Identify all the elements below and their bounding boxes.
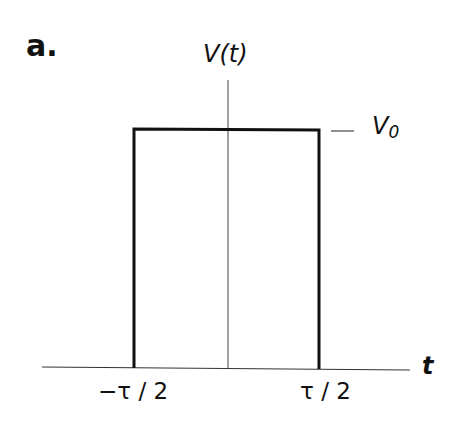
y-axis-label: V(t): [203, 40, 248, 68]
rectangular-pulse: [134, 129, 319, 369]
v0-label: V0: [372, 112, 399, 142]
x-axis: [42, 367, 410, 370]
x-axis-label: t: [422, 352, 433, 380]
tick-label-neg-tau-half: −τ / 2: [98, 378, 168, 404]
tick-label-pos-tau-half: τ / 2: [300, 378, 351, 404]
